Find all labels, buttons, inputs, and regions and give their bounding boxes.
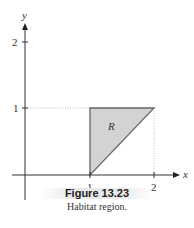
- x-axis-label: x: [182, 168, 188, 180]
- y-tick-label-2: 2: [12, 36, 18, 48]
- x-axis-arrow-icon: [173, 172, 180, 178]
- y-axis-arrow-icon: [22, 23, 28, 30]
- region-r: [90, 108, 154, 175]
- region-label: R: [107, 120, 115, 132]
- y-tick-label-1: 1: [13, 102, 19, 114]
- figure-caption: Habitat region.: [0, 201, 194, 212]
- y-axis-label: y: [21, 9, 27, 21]
- figure-title: Figure 13.23: [0, 187, 194, 199]
